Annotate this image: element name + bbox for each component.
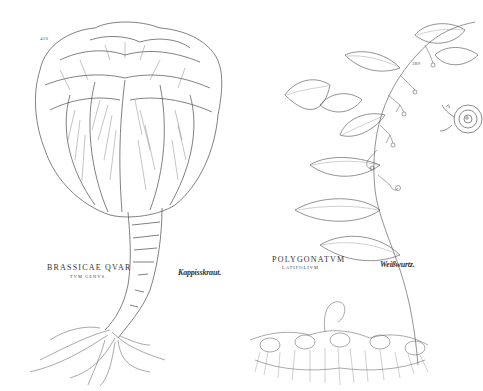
plate-brassica: 410 BRASSICAE QVAR TVM GENVS. Kappisskra…: [0, 0, 250, 391]
spiral-ornament-icon: [440, 95, 483, 145]
cabbage-illustration: [0, 0, 250, 391]
german-name-polygonatum: Weißwurtz.: [380, 260, 415, 269]
page-number-left: 410: [40, 36, 48, 41]
plate-polygonatum: 389 POLYGONATVM LATIFOLIVM Weißwurtz.: [250, 0, 483, 391]
latin-name-brassica: BRASSICAE QVAR: [47, 263, 131, 272]
latin-name-polygonatum: POLYGONATVM: [272, 255, 345, 264]
german-name-brassica: Kappisskraut.: [178, 268, 221, 277]
polygonatum-illustration: [250, 0, 483, 391]
page-number-right: 389: [412, 61, 420, 66]
latin-subtitle-polygonatum: LATIFOLIVM: [282, 265, 319, 270]
latin-subtitle-brassica: TVM GENVS.: [70, 274, 107, 279]
